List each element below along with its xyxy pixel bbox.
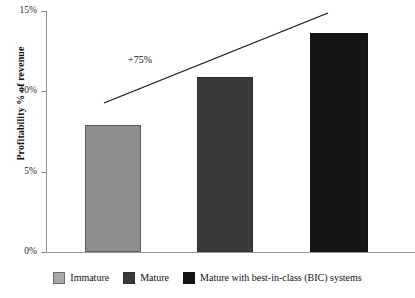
y-tick-label-10: 10% <box>0 86 37 96</box>
legend-swatch-bic-icon <box>183 272 195 284</box>
profitability-bar-chart: Profitability % of revenue 15% 10% 5% 0%… <box>0 0 415 298</box>
legend-swatch-immature-icon <box>53 272 65 284</box>
legend-swatch-mature-icon <box>123 272 135 284</box>
bar-immature <box>85 125 141 252</box>
legend-item-immature: Immature <box>53 272 109 284</box>
bar-bic <box>310 33 368 252</box>
legend-item-bic: Mature with best-in-class (BIC) systems <box>183 272 362 284</box>
growth-annotation-label: +75% <box>128 54 152 65</box>
legend-label-immature: Immature <box>70 273 109 283</box>
legend-label-mature: Mature <box>140 273 169 283</box>
x-axis-baseline <box>46 252 415 253</box>
legend-item-mature: Mature <box>123 272 169 284</box>
y-tick-mark-0 <box>41 252 46 253</box>
y-tick-label-0: 0% <box>0 247 37 257</box>
legend: Immature Mature Mature with best-in-clas… <box>0 272 415 284</box>
legend-label-bic: Mature with best-in-class (BIC) systems <box>200 273 362 283</box>
y-tick-label-5: 5% <box>0 167 37 177</box>
y-tick-label-15: 15% <box>0 6 37 16</box>
plot-area <box>46 11 415 252</box>
bar-mature <box>197 77 253 252</box>
